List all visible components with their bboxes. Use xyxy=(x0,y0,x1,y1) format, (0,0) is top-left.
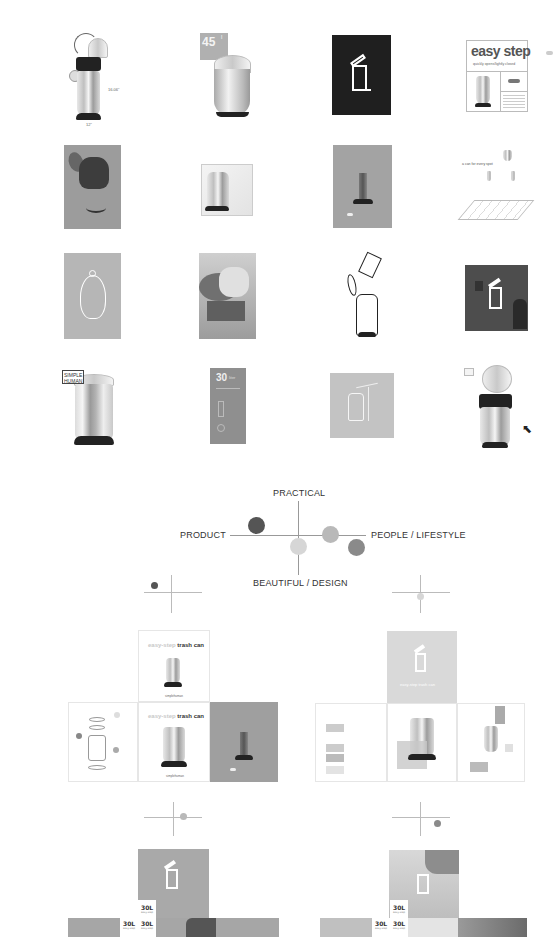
tile-capacity-card: 45 l xyxy=(200,33,252,120)
exploded-part xyxy=(76,733,82,739)
egg-can-outline xyxy=(80,275,106,319)
tile-icon-over-photo-dark xyxy=(465,265,528,331)
mini-h-axis xyxy=(144,592,202,593)
axis-label-right: PEOPLE / LIFESTYLE xyxy=(371,530,466,540)
lid-outline xyxy=(346,273,358,296)
inner-bucket xyxy=(79,157,109,189)
volume-label: 30L easy-step xyxy=(141,904,153,914)
can-foot xyxy=(74,436,114,445)
can-outline xyxy=(348,393,364,421)
feature-dots xyxy=(347,213,353,216)
mini-dot xyxy=(151,582,158,589)
exploded-part xyxy=(113,747,119,753)
floating-can-2 xyxy=(487,171,491,181)
can-outline xyxy=(218,401,224,417)
volume-sub: easy-step xyxy=(123,927,135,930)
volume-tile-1: 30L easy-step xyxy=(372,918,390,937)
mini-can xyxy=(476,76,490,104)
volume-sub: easy-step xyxy=(393,911,405,914)
dark-photo-strip xyxy=(458,918,527,937)
divider xyxy=(467,71,527,72)
concept-d-volume-tile-top: 30L easy-step xyxy=(390,900,408,918)
feature-dots xyxy=(230,768,236,771)
dark-can-photo xyxy=(513,299,527,329)
caption: a can for every spot xyxy=(462,162,493,166)
can-foot xyxy=(161,761,187,767)
floor-plan xyxy=(458,200,535,220)
open-lid xyxy=(88,38,108,58)
wall-object xyxy=(475,281,483,291)
thumb-1 xyxy=(326,724,344,732)
bag-outline xyxy=(358,252,382,279)
mini-v-axis xyxy=(173,802,174,836)
tile-open-lid-trash-can: 16.06" 12" xyxy=(64,30,114,122)
exploded-body xyxy=(88,735,106,761)
concept-a-right-panel xyxy=(210,702,278,782)
concept-a-center-panel: easy-step trash can simplehuman xyxy=(138,702,210,782)
can-sketch xyxy=(359,173,367,201)
positioning-map: PRACTICAL PRODUCT PEOPLE / LIFESTYLE BEA… xyxy=(170,480,470,590)
thumb-3 xyxy=(326,754,344,762)
label-tag xyxy=(464,368,474,376)
concept-a-left-panel xyxy=(68,702,138,782)
divider xyxy=(216,388,240,389)
tile-features-grey-card xyxy=(333,145,392,228)
concept-b-right-panel xyxy=(457,703,525,782)
small-mark-icon xyxy=(546,51,553,55)
dimension-lines xyxy=(368,387,369,421)
can-foot xyxy=(76,113,101,120)
capacity-unit: l xyxy=(221,34,222,40)
mini-dot xyxy=(180,813,187,820)
brand-mark: simplehuman xyxy=(166,774,184,778)
divider-right xyxy=(500,91,528,92)
volume-sub: easy-step xyxy=(141,911,153,914)
tile-line-drawing-can-with-bag xyxy=(344,250,394,342)
dark-photo-strip xyxy=(186,918,216,937)
tile-a-can-for-every-spot: a can for every spot xyxy=(462,148,554,228)
volume-value: 30L xyxy=(141,920,153,927)
concept-b-title: easy-step trash can xyxy=(400,682,435,687)
volume-tile-1: 30L easy-step xyxy=(120,918,138,937)
can-foot xyxy=(216,112,249,117)
concept-d-bottom-strip: 30L easy-step 30L easy-step xyxy=(320,918,527,937)
mini-map-c xyxy=(142,800,202,840)
concept-b-left-panel xyxy=(315,703,387,782)
exploded-ring-1 xyxy=(89,717,105,722)
concept-a-title: easy-step trash can xyxy=(148,642,204,648)
mini-dot xyxy=(417,593,424,600)
mini-v-axis xyxy=(420,802,421,836)
tile-outline-can-grey-square xyxy=(330,373,394,438)
axis-label-left: PRODUCT xyxy=(180,530,226,540)
title-hard: trash can xyxy=(177,642,204,648)
title-soft: easy-step xyxy=(148,642,176,648)
mini-foot xyxy=(475,103,491,107)
mini-map-d xyxy=(390,800,450,840)
tile-simple-human-can: SIMPLE HUMAN xyxy=(62,368,120,448)
can-body xyxy=(166,658,180,684)
trash-can-icon xyxy=(415,653,426,672)
tile-easy-step-card: easy step quickly opens/lightly closed xyxy=(466,40,528,112)
pedal-detail xyxy=(508,79,520,83)
can-body xyxy=(484,726,498,752)
volume-label: 30L easy-step xyxy=(393,904,405,914)
concept-c-bottom-strip: 30L easy-step 30L easy-step xyxy=(68,918,279,937)
grey-block xyxy=(320,918,372,937)
black-liner xyxy=(76,57,101,71)
knob-outline xyxy=(89,270,96,277)
thumb-4 xyxy=(326,766,344,774)
floating-can xyxy=(503,150,512,161)
mini-h-axis xyxy=(392,817,450,818)
volume-value: 30L xyxy=(393,904,405,911)
thumb-bottom xyxy=(470,762,488,772)
concept-b-top-panel: easy-step trash can xyxy=(387,631,457,703)
exploded-part xyxy=(114,712,120,718)
open-dome-lid xyxy=(482,365,512,393)
tile-30-liter-card: 30 liter xyxy=(210,368,246,444)
thumb-side xyxy=(505,744,513,752)
volume-label: 30L easy-step xyxy=(393,920,405,930)
half-round-body xyxy=(214,69,250,115)
top-dimension xyxy=(356,383,378,389)
easy-step-title: easy step xyxy=(471,43,530,59)
can-foot xyxy=(205,206,229,211)
hand-photo xyxy=(425,850,459,874)
